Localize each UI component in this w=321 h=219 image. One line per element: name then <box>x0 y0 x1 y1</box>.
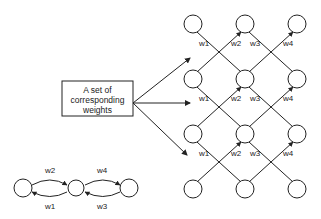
node <box>184 180 202 198</box>
weight-label: w2 <box>230 94 242 103</box>
chain-network <box>14 179 138 197</box>
chain-node <box>14 179 32 197</box>
node <box>288 15 306 33</box>
arrow-up <box>133 58 190 103</box>
weight-label: w3 <box>96 202 108 211</box>
weights-box: A set of corresponding weights <box>62 81 133 116</box>
weight-label: w4 <box>282 149 294 158</box>
node <box>184 70 202 88</box>
weight-label: w1 <box>198 39 210 48</box>
box-line-2: corresponding <box>71 95 125 105</box>
weight-label: w1 <box>198 94 210 103</box>
node <box>236 125 254 143</box>
chain-edge-top-1 <box>32 180 67 185</box>
arrow-down <box>133 103 187 155</box>
node <box>288 125 306 143</box>
weight-label: w2 <box>230 149 242 158</box>
weight-label: w3 <box>249 149 261 158</box>
weight-label: w1 <box>198 149 210 158</box>
chain-node <box>68 180 84 196</box>
node <box>288 70 306 88</box>
box-arrows <box>133 58 190 155</box>
weight-label: w2 <box>230 39 242 48</box>
node <box>184 15 202 33</box>
node <box>288 180 306 198</box>
chain-edge-top-2 <box>85 180 120 185</box>
node <box>184 125 202 143</box>
weight-sharing-diagram: w1 w2 w3 w4 w1 w2 w3 w4 w1 w2 w3 w4 A se… <box>0 0 321 219</box>
weight-label: w4 <box>282 39 294 48</box>
weight-label: w1 <box>44 202 56 211</box>
box-line-3: weights <box>82 105 112 115</box>
node <box>236 15 254 33</box>
weight-label: w4 <box>96 166 108 175</box>
node <box>236 180 254 198</box>
weight-label: w2 <box>44 166 56 175</box>
weight-label: w4 <box>282 94 294 103</box>
chain-edge-bottom-1 <box>32 192 67 197</box>
weight-label: w3 <box>249 39 261 48</box>
box-line-1: A set of <box>83 85 112 95</box>
chain-node <box>120 179 138 197</box>
chain-edge-bottom-2 <box>85 192 120 197</box>
weight-label: w3 <box>249 94 261 103</box>
node <box>236 70 254 88</box>
